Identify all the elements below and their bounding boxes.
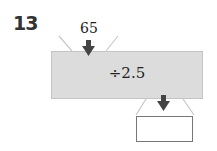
input-arrow-icon [82, 40, 95, 56]
output-arrow-icon [157, 95, 170, 111]
answer-box[interactable] [136, 116, 193, 142]
